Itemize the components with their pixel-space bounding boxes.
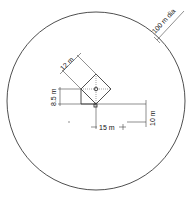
- dim-12m-label: 12 m: [59, 56, 75, 72]
- diameter-label: 100 m dia: [151, 7, 177, 34]
- dim-10m-label: 10 m: [149, 110, 156, 126]
- dim-8-5m-label: 8.5 m: [50, 88, 57, 106]
- corner-marker: [94, 104, 97, 107]
- site-diagram: 100 m dia 12 m 8.5 m 10 m 15 m: [0, 0, 192, 198]
- dim-15m-label: 15 m: [99, 124, 115, 131]
